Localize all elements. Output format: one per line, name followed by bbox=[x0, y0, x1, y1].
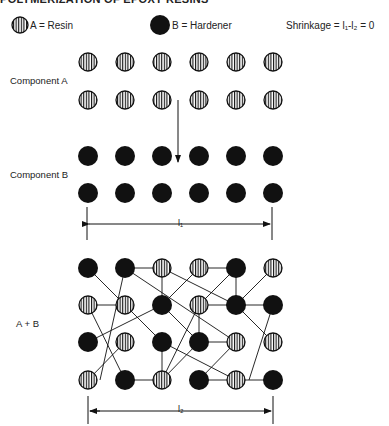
resin-molecule-icon bbox=[264, 259, 282, 277]
hardener-molecule-icon bbox=[115, 183, 135, 203]
resin-molecule-icon bbox=[190, 53, 208, 71]
hardener-molecule-icon bbox=[263, 295, 283, 315]
resin-molecule-icon bbox=[227, 371, 245, 389]
hardener-molecule-icon bbox=[152, 332, 172, 352]
resin-molecule-icon bbox=[116, 53, 134, 71]
resin-molecule-icon bbox=[116, 91, 134, 109]
hardener-molecule-icon bbox=[263, 370, 283, 390]
resin-molecule-icon bbox=[264, 91, 282, 109]
hardener-molecule-icon bbox=[263, 146, 283, 166]
hardener-molecule-icon bbox=[152, 295, 172, 315]
resin-molecule-icon bbox=[116, 296, 134, 314]
resin-molecule-icon bbox=[227, 53, 245, 71]
hardener-molecule-icon bbox=[115, 146, 135, 166]
hardener-molecule-icon bbox=[189, 146, 209, 166]
hardener-molecule-icon bbox=[263, 183, 283, 203]
hardener-molecule-icon bbox=[78, 146, 98, 166]
hardener-molecule-icon bbox=[226, 146, 246, 166]
resin-molecule-icon bbox=[153, 53, 171, 71]
hardener-molecule-icon bbox=[152, 146, 172, 166]
resin-molecule-icon bbox=[153, 91, 171, 109]
resin-molecule-icon bbox=[79, 53, 97, 71]
hardener-molecule-icon bbox=[78, 258, 98, 278]
hardener-molecule-icon bbox=[226, 258, 246, 278]
resin-molecule-icon bbox=[79, 91, 97, 109]
resin-molecule-icon bbox=[227, 333, 245, 351]
resin-molecule-icon bbox=[116, 333, 134, 351]
hardener-molecule-icon bbox=[189, 370, 209, 390]
resin-molecule-icon bbox=[264, 333, 282, 351]
resin-molecule-icon bbox=[190, 259, 208, 277]
hardener-molecule-icon bbox=[226, 183, 246, 203]
diagram-canvas bbox=[0, 0, 389, 426]
hardener-molecule-icon bbox=[152, 183, 172, 203]
resin-molecule-icon bbox=[190, 91, 208, 109]
hardener-molecule-icon bbox=[189, 183, 209, 203]
resin-molecule-icon bbox=[153, 259, 171, 277]
resin-molecule-icon bbox=[190, 296, 208, 314]
hardener-molecule-icon bbox=[189, 332, 209, 352]
resin-molecule-icon bbox=[79, 371, 97, 389]
hardener-molecule-icon bbox=[78, 183, 98, 203]
resin-molecule-icon bbox=[79, 296, 97, 314]
hardener-molecule-icon bbox=[115, 258, 135, 278]
resin-molecule-icon bbox=[227, 91, 245, 109]
hardener-molecule-icon bbox=[226, 295, 246, 315]
hardener-molecule-icon bbox=[78, 332, 98, 352]
hardener-molecule-icon bbox=[115, 370, 135, 390]
resin-molecule-icon bbox=[264, 53, 282, 71]
resin-molecule-icon bbox=[153, 371, 171, 389]
